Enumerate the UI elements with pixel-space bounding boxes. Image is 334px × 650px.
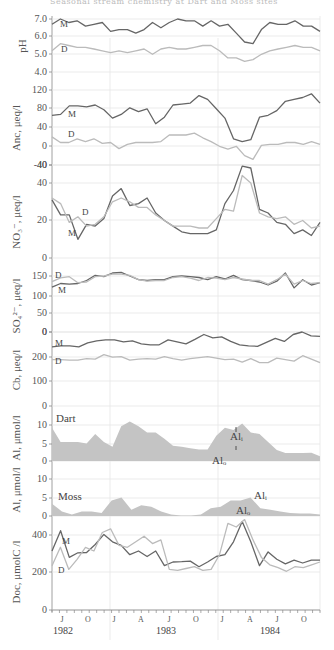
month-label: J <box>220 615 223 624</box>
y-axis-label-anc: Anc, μeq/l <box>10 105 22 151</box>
y-axis-label-so4: SO₄²⁻, μeq/l <box>10 279 22 334</box>
label-D-ph: D <box>61 44 68 54</box>
y-tick-label: 0 <box>42 455 47 466</box>
month-label: O <box>85 615 91 624</box>
year-label: 1982 <box>53 625 73 636</box>
y-tick-label: 400 <box>32 529 47 540</box>
month-label: J <box>60 615 63 624</box>
y-tick-label: 0 <box>42 140 47 151</box>
y-tick-label: 150 <box>32 270 47 281</box>
y-tick-label: 200 <box>32 351 47 362</box>
month-label: J <box>275 615 278 624</box>
year-label: 1983 <box>156 625 176 636</box>
month-label: A <box>247 615 253 624</box>
label-dart: Dart <box>56 412 76 424</box>
series-doc-D <box>52 520 320 572</box>
label-M-ph: M <box>60 19 68 29</box>
area-al_moss <box>52 498 320 517</box>
y-tick-label: 10 <box>37 473 47 484</box>
month-label: J <box>167 615 170 624</box>
label-moss: Moss <box>58 490 82 502</box>
year-label: 1984 <box>260 625 280 636</box>
label-M-anc: M <box>68 109 76 119</box>
label-al-o-dart: Alₒ <box>212 454 226 466</box>
y-tick-label: 5.0 <box>35 48 48 59</box>
y-axis-label-cb: Cb, μeq/l <box>10 350 22 391</box>
label-D-doc: D <box>58 565 65 575</box>
y-tick-label: 40 <box>37 121 47 132</box>
label-M-cb: M <box>55 338 63 348</box>
y-tick-label: 7.0 <box>35 13 48 24</box>
y-tick-label: 40 <box>37 159 47 170</box>
y-axis-label-al_dart: Al, μmol/l <box>10 415 22 461</box>
month-label: O <box>301 615 307 624</box>
y-axis-label-al_moss: Al, μmol/l <box>10 467 22 513</box>
label-D-anc: D <box>68 129 75 139</box>
y-tick-label: 200 <box>32 566 47 577</box>
y-tick-label: 4.0 <box>35 66 48 77</box>
label-M-no3: M <box>68 228 76 238</box>
y-tick-label: 100 <box>32 375 47 386</box>
label-D-no3: D <box>82 207 89 217</box>
label-D-so4: D <box>55 270 62 280</box>
y-tick-label: 0 <box>42 604 47 615</box>
y-axis-label-ph: pH <box>16 39 28 53</box>
y-tick-label: 6.0 <box>35 30 48 41</box>
y-axis-label-doc: Doc, μmolC /l <box>10 540 22 603</box>
area-al_dart <box>52 421 320 461</box>
y-tick-label: 20 <box>37 214 47 225</box>
y-tick-label: 0 <box>42 510 47 521</box>
y-tick-label: 0 <box>42 326 47 337</box>
label-al-o-moss: Alₒ <box>236 504 250 516</box>
month-label: J <box>112 615 115 624</box>
label-M-doc: M <box>62 536 70 546</box>
month-label: O <box>193 615 199 624</box>
month-label: A <box>138 615 144 624</box>
multi-panel-time-series-chart: 7.06.05.04.0pH12080400-40Anc, μeq/l40402… <box>0 0 334 650</box>
y-tick-label: 40 <box>37 177 47 188</box>
series-so4-M <box>52 272 320 288</box>
y-tick-label: 50 <box>37 307 47 318</box>
y-tick-label: 5 <box>42 438 47 449</box>
y-tick-label: 100 <box>32 290 47 301</box>
label-M-so4: M <box>58 285 66 295</box>
series-no3-M <box>52 166 320 239</box>
y-tick-label: 80 <box>37 102 47 113</box>
y-tick-label: 10 <box>37 419 47 430</box>
series-cb-D <box>52 355 320 363</box>
label-al-i-moss: Alᵢ <box>254 489 267 501</box>
y-tick-label: 5 <box>42 492 47 503</box>
label-D-cb: D <box>55 356 62 366</box>
y-tick-label: 0 <box>42 400 47 411</box>
series-ph-D <box>52 44 320 62</box>
label-al-i-dart: Alᵢ <box>230 430 243 442</box>
series-doc-M <box>52 522 320 567</box>
series-cb-M <box>52 332 320 347</box>
y-tick-label: 0 <box>42 252 47 263</box>
y-tick-label: 120 <box>32 84 47 95</box>
y-axis-label-no3: NO₃⁻, μeq/l <box>10 195 22 248</box>
series-ph-M <box>52 19 320 44</box>
